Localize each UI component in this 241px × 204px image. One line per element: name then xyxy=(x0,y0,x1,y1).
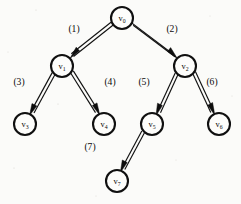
edge-label-4: (4) xyxy=(104,76,115,88)
arrow-head-2 xyxy=(168,48,178,59)
edge-label-1: (1) xyxy=(68,23,79,35)
node-v7[interactable]: v7 xyxy=(106,170,128,192)
edge-label-6: (6) xyxy=(206,76,217,88)
graph-canvas: v0 v1 v2 v3 v4 v5 v6 xyxy=(0,0,241,204)
edge-5 xyxy=(156,73,178,116)
edge-label-7: (7) xyxy=(84,141,95,153)
edge-label-3: (3) xyxy=(13,76,24,88)
edge-4 xyxy=(71,71,100,115)
edge-3 xyxy=(30,73,56,116)
node-v3[interactable]: v3 xyxy=(14,113,36,135)
node-v2[interactable]: v2 xyxy=(174,55,196,77)
edge-label-2: (2) xyxy=(166,23,177,35)
node-v1[interactable]: v1 xyxy=(51,55,73,77)
edge-7 xyxy=(120,131,144,173)
scan-noise xyxy=(8,9,233,196)
node-v0[interactable]: v0 xyxy=(111,7,133,29)
node-v6[interactable]: v6 xyxy=(208,113,230,135)
node-v4[interactable]: v4 xyxy=(93,113,115,135)
tree-diagram-figure: v0 v1 v2 v3 v4 v5 v6 xyxy=(0,0,241,204)
node-v5[interactable]: v5 xyxy=(141,113,163,135)
edge-label-5: (5) xyxy=(138,76,149,88)
